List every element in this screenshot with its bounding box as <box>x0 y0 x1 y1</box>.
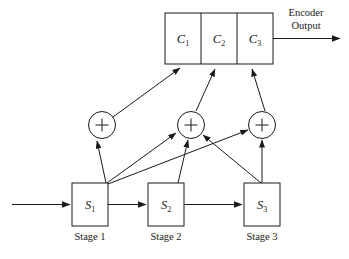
wire-adder3-to-c3 <box>252 69 265 111</box>
encoder-diagram: C1 C2 C3 S1 S2 S3 Stage 1 Stage 2 Stage … <box>0 0 349 259</box>
stage-2-caption: Stage 2 <box>150 231 181 242</box>
encoder-output-label-line1: Encoder <box>289 7 324 18</box>
tap-s2-to-adder2 <box>178 140 188 183</box>
diagram-canvas: C1 C2 C3 S1 S2 S3 Stage 1 Stage 2 Stage … <box>0 0 349 259</box>
tap-s3-to-adder2 <box>203 135 261 183</box>
wire-adder2-to-c2 <box>196 69 215 111</box>
stage-1-caption: Stage 1 <box>74 231 105 242</box>
wire-adder1-to-c1 <box>113 68 180 117</box>
stage-3-caption: Stage 3 <box>246 231 277 242</box>
tap-s1-to-adder1 <box>97 141 106 183</box>
encoder-output-label-line2: Output <box>291 20 320 31</box>
tap-s1-to-adder3 <box>108 130 248 184</box>
tap-s1-to-adder2 <box>107 133 176 183</box>
